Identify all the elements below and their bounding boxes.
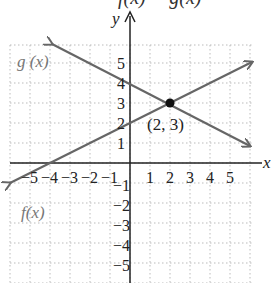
x-tick-label: −4 bbox=[41, 169, 58, 186]
intersection-label: (2, 3) bbox=[147, 115, 184, 134]
x-tick-label: 1 bbox=[146, 169, 154, 186]
x-tick-label: −5 bbox=[21, 169, 38, 186]
y-tick-labels: 54321−1−2−3−4−5 bbox=[113, 55, 130, 274]
y-tick-label: −1 bbox=[113, 177, 130, 194]
line-graph: y −5−4−3−2−112345 54321−1−2−3−4−5 (2, 3)… bbox=[0, 0, 271, 283]
y-tick-label: 3 bbox=[117, 95, 125, 112]
x-tick-label: −2 bbox=[81, 169, 98, 186]
y-tick-label: −2 bbox=[113, 197, 130, 214]
x-tick-label: 4 bbox=[206, 169, 214, 186]
intersection-point bbox=[166, 99, 175, 108]
x-tick-label: −3 bbox=[61, 169, 78, 186]
x-tick-label: 2 bbox=[166, 169, 174, 186]
x-axis-label-cut: x bbox=[262, 153, 271, 172]
y-tick-label: 1 bbox=[117, 135, 125, 152]
y-tick-label: −3 bbox=[113, 217, 130, 234]
y-tick-label: 5 bbox=[117, 55, 125, 72]
g-label: g (x) bbox=[17, 52, 49, 71]
x-tick-label: 3 bbox=[186, 169, 194, 186]
y-tick-label: 4 bbox=[117, 75, 125, 92]
f-label: f(x) bbox=[21, 203, 45, 222]
y-tick-label: −4 bbox=[113, 237, 130, 254]
y-tick-label: 2 bbox=[117, 115, 125, 132]
y-axis-label: y bbox=[110, 9, 120, 28]
y-tick-label: −5 bbox=[113, 257, 130, 274]
x-tick-label: 5 bbox=[226, 169, 234, 186]
